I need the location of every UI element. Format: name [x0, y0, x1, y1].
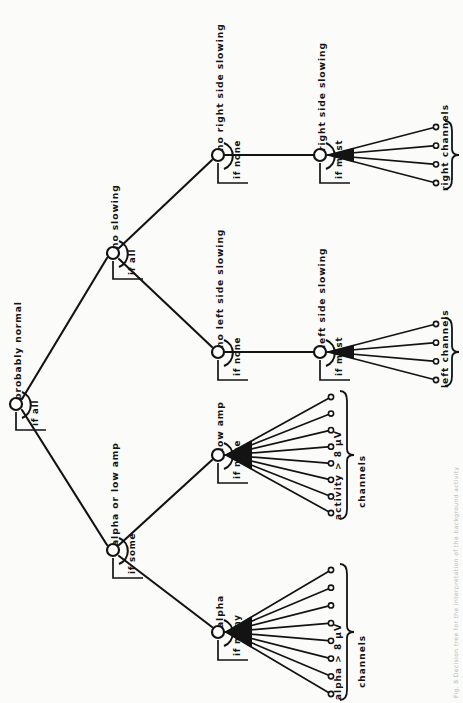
node-label-alpha-or-low-amp: alpha or low amp — [109, 442, 120, 546]
channel-dot-alpha — [328, 567, 333, 572]
node-label-right-side-slowing: right side slowing — [316, 42, 327, 151]
brace-sub-low-amp: channels — [357, 455, 367, 508]
condition-label-left-slow: if most — [334, 337, 344, 376]
node-label-no-left-side-slowing: no left side slowing — [214, 229, 225, 348]
condition-label-root: if all — [30, 400, 40, 426]
edge-group — [22, 155, 314, 627]
condition-label-low-amp: if none — [232, 440, 242, 479]
node-label-no-slowing: no slowing — [109, 184, 120, 249]
node-label-left-side-slowing: left side slowing — [316, 247, 327, 348]
channel-dot-left-slow — [433, 377, 438, 382]
brace-label-left-channels: left channels — [440, 309, 450, 388]
channel-dot-low-amp — [328, 411, 333, 416]
brace-sub-alpha: channels — [357, 635, 367, 688]
brace-label-alpha: alpha > 8 µV — [333, 623, 343, 700]
channel-dot-right-slow — [433, 143, 438, 148]
node-label-probably-normal: probably normal — [12, 301, 23, 400]
condition-label-no-slowing: if all — [127, 249, 137, 275]
condition-label-alpha-low: if some — [127, 533, 137, 574]
node-circle-layer — [10, 149, 326, 638]
edge-no-slowing-no-right — [119, 160, 212, 248]
condition-label-right-slow: if most — [334, 140, 344, 179]
node-arc-group — [22, 143, 335, 646]
condition-label-no-left: if none — [232, 337, 242, 376]
edge-root-no-slowing — [22, 258, 107, 399]
channel-dot-left-slow — [433, 359, 438, 364]
channel-dot-alpha — [328, 585, 333, 590]
channel-dot-right-slow — [433, 162, 438, 167]
channel-dot-right-slow — [433, 180, 438, 185]
figure-decision-tree: probably normal if all no slowing if all… — [0, 0, 463, 703]
condition-label-no-right: if none — [232, 140, 242, 179]
brace-label-low-amp: activity > 8 µV — [333, 430, 343, 520]
node-label-alpha: alpha — [214, 595, 225, 628]
brace-layer — [340, 121, 459, 700]
condition-label-alpha: if many — [232, 614, 242, 656]
node-label-no-right-side-slowing: no right side slowing — [214, 23, 225, 151]
condition-rule-group — [16, 163, 350, 660]
fan-layer — [226, 124, 439, 696]
channel-dot-left-slow — [433, 340, 438, 345]
channel-dot-right-slow — [433, 124, 438, 129]
channel-dot-alpha — [328, 603, 333, 608]
channel-dot-low-amp — [328, 394, 333, 399]
channel-dot-left-slow — [433, 321, 438, 326]
node-label-low-amp: low amp — [214, 401, 225, 451]
figure-caption: Fig. 8 Decision tree for the interpretat… — [452, 466, 459, 698]
brace-label-right-channels: right channels — [440, 104, 450, 191]
